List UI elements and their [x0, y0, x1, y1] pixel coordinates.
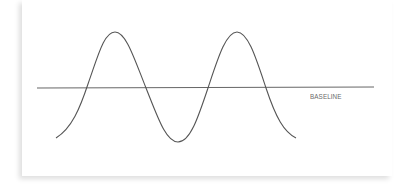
- baseline-line: [37, 87, 374, 88]
- baseline-label: BASELINE: [310, 93, 342, 100]
